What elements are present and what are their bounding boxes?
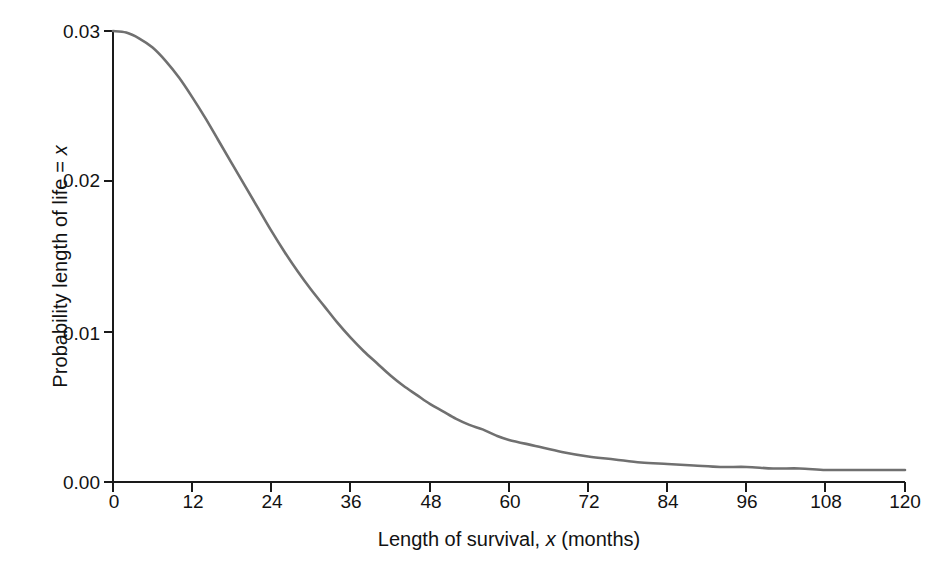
- y-tick-label-0.02: 0.02: [34, 171, 100, 190]
- x-tick-label-96: 96: [712, 492, 782, 511]
- x-tick-label-84: 84: [633, 492, 703, 511]
- x-axis-title-prefix: Length of survival,: [378, 528, 546, 550]
- x-tick-label-12: 12: [158, 492, 228, 511]
- x-axis-title-suffix: (months): [556, 528, 640, 550]
- plot-area: [0, 0, 941, 577]
- y-tick-label-0.03: 0.03: [34, 22, 100, 41]
- x-tick-label-60: 60: [475, 492, 545, 511]
- chart-figure: Probability length of life = x 0.03 0.02…: [0, 0, 941, 577]
- x-tick-label-72: 72: [554, 492, 624, 511]
- figure-caption: [10, 566, 930, 577]
- x-tick-label-0: 0: [79, 492, 149, 511]
- y-tick-label-0.00: 0.00: [34, 473, 100, 492]
- survival-density-curve: [113, 31, 905, 470]
- y-axis-tick-labels: 0.03 0.02 0.01 0.00: [28, 0, 100, 520]
- x-axis-title-variable: x: [546, 528, 556, 550]
- x-tick-label-108: 108: [791, 492, 861, 511]
- x-tick-label-36: 36: [316, 492, 386, 511]
- y-tick-label-0.01: 0.01: [34, 324, 100, 343]
- x-axis-tick-labels: 0 12 24 36 48 60 72 84 96 108 120: [0, 492, 941, 522]
- x-tick-label-48: 48: [396, 492, 466, 511]
- x-tick-label-120: 120: [870, 492, 940, 511]
- y-axis-ticks: [104, 31, 113, 482]
- x-tick-label-24: 24: [237, 492, 307, 511]
- x-axis-title: Length of survival, x (months): [113, 528, 905, 551]
